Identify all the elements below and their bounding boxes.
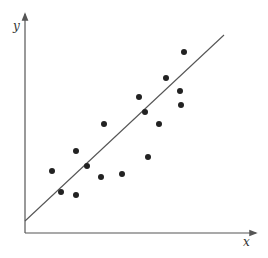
data-point xyxy=(119,171,125,177)
data-point xyxy=(156,121,162,127)
data-points xyxy=(49,49,187,198)
data-point xyxy=(84,163,90,169)
data-point xyxy=(101,121,107,127)
data-point xyxy=(98,174,104,180)
data-point xyxy=(136,94,142,100)
data-point xyxy=(58,189,64,195)
regression-line xyxy=(25,35,224,221)
x-axis-label: x xyxy=(243,235,250,249)
data-point xyxy=(163,75,169,81)
data-point xyxy=(73,192,79,198)
data-point xyxy=(145,154,151,160)
data-point xyxy=(49,168,55,174)
data-point xyxy=(181,49,187,55)
data-point xyxy=(142,109,148,115)
y-axis-label: y xyxy=(12,19,20,33)
data-point xyxy=(73,148,79,154)
scatter-chart: y x xyxy=(0,0,268,258)
data-point xyxy=(177,88,183,94)
data-point xyxy=(178,102,184,108)
